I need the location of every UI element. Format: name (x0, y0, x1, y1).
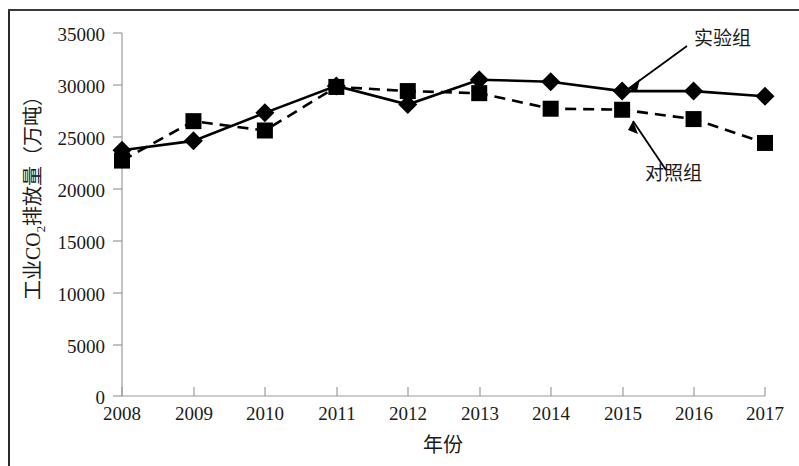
y-tick-label: 30000 (58, 76, 106, 97)
series-markers-experimental-group: 实验组 2008: 23700实验组 2009: 24600实验组 2010: … (113, 70, 775, 160)
x-tick-label: 2014 (532, 403, 571, 424)
annotation-arrowhead-experimental (628, 79, 640, 91)
annotation-control-group: 对照组 (628, 121, 702, 184)
y-axis-title: 工业CO2排放量（万吨） (22, 86, 48, 300)
y-axis-title-pre: 工业CO (22, 232, 44, 300)
x-axis-ticks (122, 387, 765, 396)
data-point-square: 对照组 2014: 27700 (543, 101, 559, 117)
data-point-diamond: 实验组 2014: 30300 (541, 72, 560, 91)
data-point-diamond: 实验组 2010: 27300 (255, 103, 274, 122)
data-point-diamond: 实验组 2017: 28900 (756, 87, 775, 106)
x-axis-tick-labels: 2008 2009 2010 2011 2012 2013 2014 2015 … (103, 403, 784, 424)
series-line-experimental-group (122, 80, 765, 151)
x-tick-label: 2017 (746, 403, 784, 424)
y-tick-label: 35000 (58, 24, 106, 45)
x-tick-label: 2016 (675, 403, 713, 424)
x-tick-label: 2009 (175, 403, 213, 424)
annotation-label-experimental: 实验组 (694, 28, 751, 49)
chart-page: 35000 30000 25000 20000 15000 10000 5000… (0, 0, 799, 466)
x-axis-title: 年份 (423, 434, 463, 456)
data-point-square: 对照组 2009: 26500 (185, 113, 201, 129)
data-point-diamond: 实验组 2016: 29400 (684, 82, 703, 101)
y-tick-label: 20000 (58, 180, 106, 201)
data-point-square: 对照组 2016: 26700 (686, 111, 702, 127)
x-tick-label: 2011 (318, 403, 355, 424)
svg-text:工业CO2排放量（万吨）: 工业CO2排放量（万吨） (22, 86, 48, 300)
data-point-square: 对照组 2010: 25600 (257, 122, 273, 138)
x-tick-label: 2012 (389, 403, 427, 424)
y-axis-ticks (113, 33, 122, 396)
annotation-experimental-group: 实验组 (628, 28, 751, 91)
data-point-square: 对照组 2015: 27600 (614, 102, 630, 118)
line-chart: 35000 30000 25000 20000 15000 10000 5000… (0, 0, 799, 466)
data-point-square: 对照组 2017: 24400 (757, 135, 773, 151)
data-point-diamond: 实验组 2009: 24600 (184, 131, 203, 150)
x-tick-label: 2010 (246, 403, 284, 424)
x-tick-label: 2015 (604, 403, 642, 424)
annotation-label-control: 对照组 (645, 163, 702, 184)
y-tick-label: 10000 (58, 284, 106, 305)
x-tick-label: 2013 (461, 403, 499, 424)
series-line-control-group (122, 87, 765, 161)
x-tick-label: 2008 (103, 403, 141, 424)
data-point-diamond: 实验组 2015: 29400 (613, 82, 632, 101)
chart-canvas: 35000 30000 25000 20000 15000 10000 5000… (0, 0, 799, 466)
y-tick-label: 15000 (58, 232, 106, 253)
y-tick-label: 5000 (67, 336, 105, 357)
y-tick-label: 25000 (58, 128, 106, 149)
y-axis-tick-labels: 35000 30000 25000 20000 15000 10000 5000… (58, 24, 106, 408)
y-axis-title-post: 排放量（万吨） (22, 86, 44, 226)
